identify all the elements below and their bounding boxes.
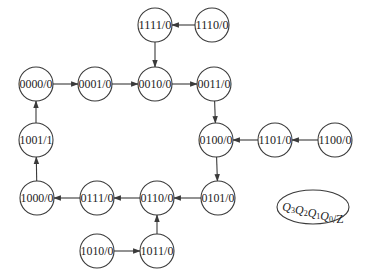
state-node-1011: 1011/0 bbox=[140, 234, 174, 268]
state-node-0001: 0001/0 bbox=[78, 67, 112, 101]
state-label: 1010/0 bbox=[81, 245, 114, 257]
state-label: 0110/0 bbox=[141, 192, 174, 204]
legend: Q3Q2Q1Q0/Z bbox=[277, 190, 349, 226]
state-node-0110: 0110/0 bbox=[140, 181, 174, 215]
state-label: 1100/0 bbox=[319, 134, 352, 146]
states-layer: 1111/01110/00000/00001/00010/00011/01001… bbox=[19, 8, 352, 268]
state-label: 0101/0 bbox=[202, 192, 235, 204]
state-label: 1110/0 bbox=[196, 19, 229, 31]
state-node-0101: 0101/0 bbox=[201, 181, 235, 215]
state-label: 1101/0 bbox=[259, 134, 292, 146]
state-label: 1111/0 bbox=[139, 19, 172, 31]
state-diagram: 1111/01110/00000/00001/00010/00011/01001… bbox=[0, 0, 365, 280]
state-node-1010: 1010/0 bbox=[80, 234, 114, 268]
state-node-0010: 0010/0 bbox=[138, 67, 172, 101]
state-label: 1011/0 bbox=[141, 245, 174, 257]
state-label: 1001/1 bbox=[20, 134, 53, 146]
state-label: 1000/0 bbox=[21, 192, 54, 204]
state-node-1001: 1001/1 bbox=[19, 123, 53, 157]
state-node-1110: 1110/0 bbox=[195, 8, 229, 42]
state-node-1101: 1101/0 bbox=[258, 123, 292, 157]
state-node-0100: 0100/0 bbox=[199, 123, 233, 157]
state-node-0000: 0000/0 bbox=[19, 67, 53, 101]
state-node-1100: 1100/0 bbox=[318, 123, 352, 157]
state-node-0011: 0011/0 bbox=[197, 67, 231, 101]
transition-arrow-0100-to-0101 bbox=[217, 157, 218, 181]
state-label: 0010/0 bbox=[139, 78, 172, 90]
state-node-1000: 1000/0 bbox=[20, 181, 54, 215]
state-label: 0001/0 bbox=[79, 78, 112, 90]
state-node-0111: 0111/0 bbox=[80, 181, 114, 215]
state-label: 0100/0 bbox=[200, 134, 233, 146]
state-node-1111: 1111/0 bbox=[138, 8, 172, 42]
state-label: 0000/0 bbox=[20, 78, 53, 90]
transition-arrow-0011-to-0100 bbox=[215, 101, 216, 123]
state-label: 0011/0 bbox=[198, 78, 231, 90]
state-label: 0111/0 bbox=[81, 192, 114, 204]
